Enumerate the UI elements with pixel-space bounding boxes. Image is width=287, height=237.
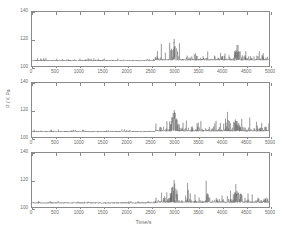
x-tick-label: 500 xyxy=(42,211,68,216)
x-tick-label: 2000 xyxy=(114,211,140,216)
y-tick-mark xyxy=(32,209,35,210)
x-tick-label: 3000 xyxy=(161,211,187,216)
chart-panel-3: 1001201400500100015002000250030003500400… xyxy=(0,0,287,237)
plot-area-3 xyxy=(31,152,270,208)
x-tick-label: 0 xyxy=(18,211,44,216)
x-tick-label: 4500 xyxy=(233,211,259,216)
x-tick-label: 5000 xyxy=(257,211,283,216)
y-tick-label: 100 xyxy=(6,206,28,211)
x-tick-mark-bottom xyxy=(271,207,272,210)
x-tick-label: 1000 xyxy=(66,211,92,216)
x-tick-label: 3500 xyxy=(185,211,211,216)
figure-root: P / K Pa Time/s 100120140050010001500200… xyxy=(0,0,287,237)
y-tick-label: 140 xyxy=(6,150,28,155)
x-tick-mark-top xyxy=(271,153,272,156)
y-tick-label: 120 xyxy=(6,178,28,183)
trace-3 xyxy=(32,153,269,207)
x-tick-label: 4000 xyxy=(209,211,235,216)
x-tick-label: 2500 xyxy=(138,211,164,216)
x-tick-label: 1500 xyxy=(90,211,116,216)
